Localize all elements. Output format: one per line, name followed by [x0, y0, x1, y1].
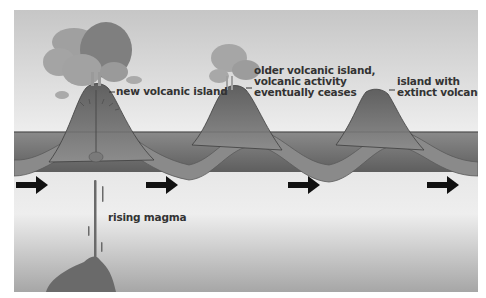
hotspot-diagram: [14, 10, 478, 292]
label-older-volcanic-island: older volcanic island, volcanic activity…: [254, 65, 375, 98]
label-new-volcanic-island: new volcanic island: [116, 86, 228, 97]
magma-chamber: [89, 152, 103, 162]
label-rising-magma: rising magma: [108, 212, 186, 223]
diagram-panel: new volcanic island older volcanic islan…: [14, 10, 478, 292]
label-line: extinct volcano: [397, 87, 478, 98]
label-line: eventually ceases: [254, 87, 375, 98]
label-extinct-volcano: island with extinct volcano: [397, 76, 478, 98]
